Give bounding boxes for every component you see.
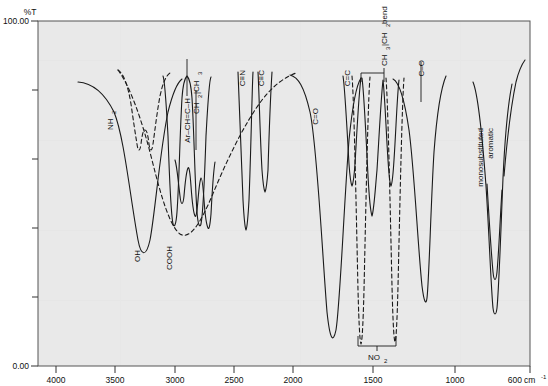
label-cc-triple: C≡C <box>257 70 266 86</box>
label-cn-triple: C≡N <box>238 70 247 86</box>
label-bend-tail: bend <box>380 6 389 24</box>
label-ar-ch: Ar–CH=C–H <box>183 98 192 143</box>
plot-background <box>38 21 530 366</box>
label-ch2-main: CH <box>192 102 201 114</box>
label-bend-ch3: CH <box>380 54 389 66</box>
x-tick-3000: 3000 <box>166 375 185 385</box>
ir-correlation-chart: %T 100.00 0.00 4000 3500 3000 2500 2000 … <box>0 0 548 386</box>
y-tick-100: 100.00 <box>3 16 29 26</box>
x-tick-2500: 2500 <box>225 375 244 385</box>
label-no2-main: NO <box>368 353 380 362</box>
x-tick-600: 600 <box>508 375 522 385</box>
y-tick-0: 0.00 <box>12 361 29 371</box>
x-tick-4000: 4000 <box>47 375 66 385</box>
x-tick-2000: 2000 <box>284 375 303 385</box>
label-co-double: C=O <box>311 108 320 125</box>
label-oh: OH <box>133 250 142 262</box>
label-mono-line1: monosubstituted <box>476 128 485 187</box>
x-axis-unit-exponent: -1 <box>541 374 547 380</box>
label-nh2-main: NH <box>106 118 115 130</box>
label-cc-double: C=C <box>343 70 352 86</box>
label-c-o-single: C–O <box>417 60 426 76</box>
label-mono-line2: aromatic <box>486 128 495 159</box>
label-cooh: COOH <box>165 246 174 270</box>
label-bend-mid: |CH <box>380 32 389 46</box>
x-tick-1500: 1500 <box>364 375 383 385</box>
x-axis-unit: cm <box>524 375 535 385</box>
x-tick-1000: 1000 <box>446 375 465 385</box>
label-ch2-separator: |CH <box>192 80 201 94</box>
x-tick-3500: 3500 <box>106 375 125 385</box>
ir-spectrum-figure: %T 100.00 0.00 4000 3500 3000 2500 2000 … <box>0 0 548 386</box>
